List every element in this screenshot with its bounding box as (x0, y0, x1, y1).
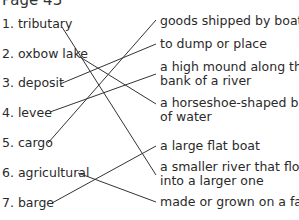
match-line-cargo (48, 20, 156, 143)
match-line-deposit (60, 44, 156, 84)
match-line-tributary (62, 27, 156, 175)
match-line-barge (52, 146, 156, 203)
match-lines (0, 0, 299, 220)
match-line-agricultural (78, 173, 156, 202)
